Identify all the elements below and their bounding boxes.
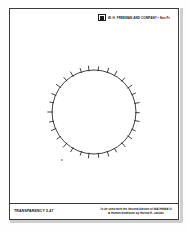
tick-mark: [57, 136, 61, 139]
scan-edge-shadow-bottom: [10, 220, 182, 223]
publisher-logo-icon: [98, 14, 106, 21]
credit-block: To be used with the Second Edition of MA…: [100, 208, 172, 215]
tick-mark-group: [48, 66, 140, 158]
circle-outline: [52, 70, 136, 154]
credit-line-2: A Human Endeavor by Harold R. Jacobs: [100, 211, 172, 215]
header: W. H. FREEMAN AND COMPANY • San Francisc…: [98, 13, 170, 22]
tick-mark: [88, 153, 89, 158]
tick-mark: [64, 78, 67, 81]
tick-mark: [122, 78, 125, 81]
tick-mark: [63, 143, 66, 147]
tick-mark: [122, 143, 126, 147]
tick-mark: [114, 71, 117, 76]
scan-edge-shadow-right: [180, 8, 183, 222]
transparency-label: TRANSPARENCY 5-47: [14, 209, 54, 215]
transparency-page: W. H. FREEMAN AND COMPANY • San Francisc…: [0, 0, 190, 231]
circle-diagram: [10, 24, 178, 200]
stray-point: [61, 159, 62, 160]
tick-mark: [88, 66, 89, 71]
circle-figure: [10, 24, 178, 200]
tick-mark: [56, 84, 60, 87]
footer-divider: [10, 203, 178, 204]
tick-mark: [71, 148, 73, 152]
tick-mark: [128, 85, 132, 88]
tick-mark: [71, 72, 74, 76]
publisher-line: W. H. FREEMAN AND COMPANY • San Francisc…: [108, 15, 170, 20]
tick-mark: [128, 136, 132, 139]
